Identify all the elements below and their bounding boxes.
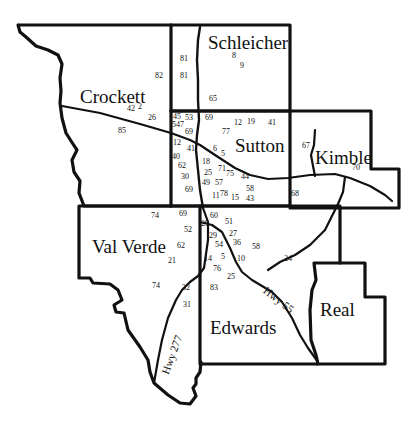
site-number: 14 (204, 255, 212, 263)
site-number: 40 (172, 153, 180, 161)
site-number: 75 (226, 170, 234, 178)
site-number: 30 (181, 173, 189, 181)
site-number: 15 (231, 194, 239, 202)
county-label-sutton: Sutton (235, 136, 285, 155)
site-number: 41 (268, 119, 276, 127)
site-number: 62 (178, 162, 186, 170)
site-number: 60 (210, 212, 218, 220)
site-number: 77 (222, 128, 230, 136)
site-number: 6 (213, 145, 217, 153)
site-number: 54 (215, 241, 223, 249)
site-number: 49 (202, 179, 210, 187)
site-number: 69 (185, 186, 193, 194)
site-number: 19 (247, 118, 255, 126)
site-number: 32 (182, 284, 190, 292)
site-number: 9 (240, 62, 244, 70)
site-number: 81 (180, 72, 188, 80)
site-number: 31 (183, 301, 191, 309)
site-number: 11 (212, 192, 220, 200)
site-number: 68 (291, 190, 299, 198)
site-number: 67 (302, 142, 310, 150)
site-number: 51 (225, 218, 233, 226)
county-label-kimble: Kimble (315, 148, 372, 167)
site-number: 547 (172, 121, 184, 129)
site-number: 65 (209, 95, 217, 103)
kimble-branch (268, 177, 345, 270)
site-number: 10 (237, 255, 245, 263)
site-number: 78 (220, 190, 228, 198)
site-number: 21 (168, 257, 176, 265)
site-number: 58 (252, 243, 260, 251)
site-number: 62 (177, 242, 185, 250)
site-number: 57 (215, 179, 223, 187)
site-number: 25 (227, 273, 235, 281)
site-number: 8 (232, 52, 236, 60)
site-number: 24 (284, 255, 292, 263)
site-number: 18 (202, 158, 210, 166)
site-number: 29 (201, 220, 209, 228)
county-label-schleicher: Schleicher (208, 33, 288, 52)
site-number: 26 (148, 114, 156, 122)
site-number: 81 (180, 55, 188, 63)
site-number: 5 (221, 150, 225, 158)
site-number: 44 (241, 173, 249, 181)
county-label-real: Real (320, 300, 355, 319)
site-number: 43 (246, 195, 254, 203)
county-label-val-verde: Val Verde (92, 237, 166, 256)
site-number: 5 (221, 253, 225, 261)
site-number: 76 (213, 265, 221, 273)
site-number: 82 (155, 72, 163, 80)
site-number: 69 (185, 128, 193, 136)
site-number: 12 (234, 119, 242, 127)
site-number: 83 (210, 284, 218, 292)
site-number: 25 (204, 169, 212, 177)
site-number: 70 (352, 164, 360, 172)
site-number: 12 (173, 139, 181, 147)
site-number: 29 (209, 232, 217, 240)
site-number: 53 (185, 114, 193, 122)
site-number: 52 (184, 226, 192, 234)
site-number: 42 (127, 105, 135, 113)
county-label-crockett: Crockett (80, 87, 145, 106)
site-number: 74 (152, 282, 160, 290)
site-number: 69 (205, 114, 213, 122)
site-number: 27 (229, 230, 237, 238)
site-number: 71 (218, 165, 226, 173)
site-number: 74 (151, 212, 159, 220)
site-number: 58 (246, 185, 254, 193)
site-number: 85 (118, 127, 126, 135)
site-number: 2 (138, 103, 142, 111)
site-number: 69 (179, 210, 187, 218)
county-label-edwards: Edwards (210, 318, 276, 337)
site-number: 41 (187, 145, 195, 153)
county-map (0, 0, 417, 422)
site-number: 36 (233, 239, 241, 247)
